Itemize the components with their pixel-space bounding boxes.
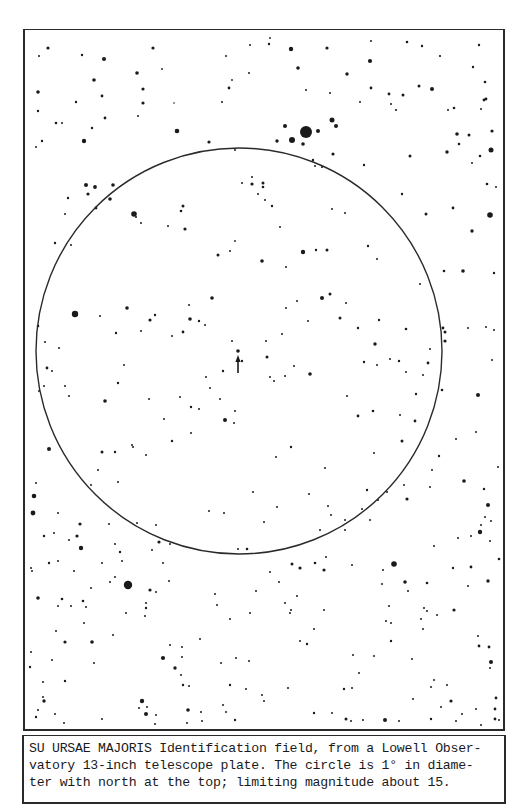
star — [135, 71, 139, 75]
star — [144, 615, 146, 617]
star — [145, 602, 147, 604]
star — [452, 567, 454, 569]
star — [455, 438, 457, 440]
star — [67, 197, 69, 199]
star — [487, 212, 493, 218]
star — [316, 129, 320, 133]
star — [168, 580, 170, 582]
star — [248, 72, 250, 74]
star — [180, 210, 183, 213]
star — [207, 140, 210, 143]
star — [402, 94, 405, 97]
star — [101, 718, 103, 720]
star — [319, 529, 321, 531]
star — [85, 606, 87, 608]
star — [293, 365, 295, 367]
star — [323, 609, 325, 611]
star — [370, 40, 372, 42]
star — [494, 718, 497, 721]
star — [234, 410, 236, 412]
star — [171, 440, 173, 442]
star — [399, 414, 401, 416]
star — [186, 722, 188, 724]
star — [385, 620, 387, 622]
star — [407, 590, 409, 592]
star — [115, 332, 117, 334]
star — [461, 269, 465, 273]
star — [284, 375, 286, 377]
star — [378, 319, 380, 321]
star — [458, 143, 461, 146]
star — [252, 491, 254, 493]
star — [268, 43, 270, 45]
star — [278, 581, 280, 583]
star — [144, 712, 148, 716]
star — [301, 250, 305, 254]
star — [101, 562, 103, 564]
star — [361, 508, 363, 510]
star — [312, 159, 314, 161]
star — [51, 370, 53, 372]
star — [462, 479, 466, 483]
star — [452, 207, 455, 210]
star — [298, 566, 301, 569]
star — [472, 66, 474, 68]
star — [225, 55, 227, 57]
star — [480, 524, 482, 526]
star — [35, 146, 37, 148]
star — [490, 520, 492, 522]
star — [31, 511, 36, 516]
arrow-up-icon — [235, 355, 240, 373]
star — [117, 382, 119, 384]
star — [35, 716, 37, 718]
star — [494, 708, 497, 711]
star — [79, 546, 83, 550]
star — [291, 563, 294, 566]
star — [433, 679, 435, 681]
star — [216, 604, 218, 606]
star — [198, 408, 200, 410]
star — [57, 560, 59, 562]
star — [409, 155, 412, 158]
star — [470, 229, 473, 232]
star — [234, 719, 236, 721]
star — [182, 205, 185, 208]
star — [289, 47, 293, 51]
star — [345, 302, 347, 304]
star — [201, 720, 203, 722]
star — [290, 446, 292, 448]
star — [141, 87, 144, 90]
star — [92, 78, 96, 82]
star — [101, 95, 104, 98]
star — [209, 387, 211, 389]
star — [188, 685, 190, 687]
star — [485, 326, 487, 328]
star — [486, 183, 489, 186]
star — [480, 108, 482, 110]
star — [30, 651, 32, 653]
star — [162, 562, 164, 564]
star — [329, 92, 331, 94]
star — [204, 324, 206, 326]
star — [345, 718, 348, 721]
star — [271, 205, 273, 207]
star — [284, 602, 286, 604]
star — [58, 347, 60, 349]
star — [163, 418, 165, 420]
star — [68, 395, 70, 397]
star — [307, 320, 309, 322]
star — [279, 226, 281, 228]
star — [155, 591, 157, 593]
star — [219, 398, 221, 400]
star — [229, 618, 231, 620]
star — [121, 560, 123, 562]
star — [426, 610, 428, 612]
star — [131, 444, 133, 446]
star — [376, 258, 378, 260]
star — [221, 101, 223, 103]
star — [61, 122, 63, 124]
star — [467, 327, 469, 329]
star — [308, 372, 312, 376]
star — [330, 514, 332, 516]
star — [141, 101, 144, 104]
